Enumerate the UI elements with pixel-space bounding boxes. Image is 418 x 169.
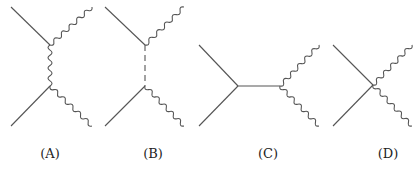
label-a: (A) bbox=[40, 146, 60, 161]
label-d: (D) bbox=[378, 146, 399, 161]
photon-line bbox=[373, 45, 412, 85]
photon-line bbox=[145, 7, 184, 45]
diagram-c bbox=[199, 45, 319, 126]
photon-line bbox=[48, 45, 52, 86]
diagram-d bbox=[333, 45, 412, 126]
photon-line bbox=[373, 85, 412, 126]
fermion-line bbox=[199, 86, 238, 126]
label-c: (C) bbox=[258, 146, 278, 161]
fermion-line bbox=[105, 7, 145, 45]
diagram-a bbox=[11, 7, 92, 126]
feynman-diagrams bbox=[0, 0, 418, 169]
photon-line bbox=[145, 86, 184, 126]
fermion-line bbox=[11, 7, 50, 45]
photon-line bbox=[280, 45, 319, 86]
fermion-line bbox=[333, 45, 373, 85]
label-b: (B) bbox=[143, 146, 163, 161]
fermion-line bbox=[333, 85, 373, 126]
fermion-line bbox=[199, 45, 238, 86]
fermion-line bbox=[11, 86, 50, 126]
fermion-line bbox=[105, 86, 145, 126]
diagram-b bbox=[105, 7, 184, 126]
photon-line bbox=[50, 86, 92, 126]
photon-line bbox=[50, 7, 92, 45]
photon-line bbox=[280, 86, 319, 126]
